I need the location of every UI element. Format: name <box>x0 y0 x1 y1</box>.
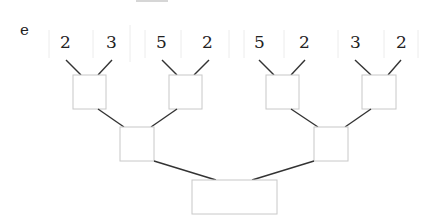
edges-leaf-to-level1 <box>66 60 401 75</box>
edges-level1-to-level2 <box>98 109 371 127</box>
leaf-value: 2 <box>396 32 407 52</box>
merge-box <box>73 75 106 109</box>
section-label: e <box>20 21 29 39</box>
leaf-value: 2 <box>60 32 71 52</box>
level2-boxes <box>120 127 348 161</box>
edges-level2-to-root <box>154 161 314 180</box>
leaf-value: 2 <box>202 32 213 52</box>
merge-box <box>362 75 396 109</box>
cell-dividers <box>49 25 418 62</box>
level1-boxes <box>73 75 396 109</box>
merge-box <box>169 75 202 109</box>
merge-tree-diagram: e 2 3 5 2 5 2 3 2 <box>0 0 428 219</box>
leaf-values: 2 3 5 2 5 2 3 2 <box>60 32 407 52</box>
leaf-value: 2 <box>299 32 310 52</box>
merge-box <box>266 75 299 109</box>
leaf-value: 5 <box>254 32 265 52</box>
merge-box <box>314 127 348 161</box>
leaf-value: 3 <box>350 32 361 52</box>
leaf-value: 5 <box>156 32 167 52</box>
root-box <box>192 180 277 214</box>
leaf-value: 3 <box>106 32 117 52</box>
merge-box <box>120 127 154 161</box>
